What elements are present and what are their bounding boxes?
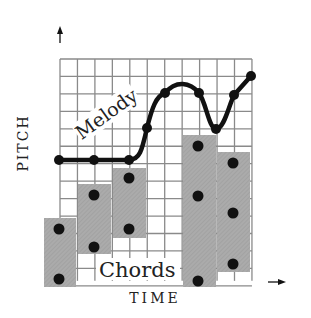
melody-label: Melody [71, 84, 142, 144]
melody-chords-diagram: Chords Melody PITCH TIME [0, 0, 311, 318]
chord-note-dot [193, 191, 204, 202]
chord-note-dot [89, 242, 100, 253]
melody-note-dot [194, 88, 204, 98]
chord-note-dot [228, 208, 239, 219]
chords-label: Chords [99, 258, 176, 282]
x-axis-label: TIME [129, 290, 180, 306]
time-axis-arrow-icon [268, 279, 286, 285]
melody-note-dot [89, 155, 99, 165]
chord-note-dot [124, 173, 135, 184]
melody-note-dot [124, 155, 134, 165]
chord-note-dot [124, 224, 135, 235]
chord-note-dot [89, 190, 100, 201]
melody-note-dot [229, 90, 239, 100]
pitch-axis-arrow-icon [57, 26, 63, 43]
chord-note-dot [228, 158, 239, 169]
melody-note-dot [246, 71, 256, 81]
chord-note-dot [54, 224, 65, 235]
chord-note-dot [54, 274, 65, 285]
melody-note-dot [142, 123, 152, 133]
melody-note-dot [211, 124, 221, 134]
chord-note-dot [228, 259, 239, 270]
melody-note-dot [54, 155, 64, 165]
chord-note-dot [193, 276, 204, 287]
melody-note-dot [160, 88, 170, 98]
y-axis-label: PITCH [15, 114, 31, 171]
chord-block-4 [183, 135, 216, 287]
chord-note-dot [193, 141, 204, 152]
